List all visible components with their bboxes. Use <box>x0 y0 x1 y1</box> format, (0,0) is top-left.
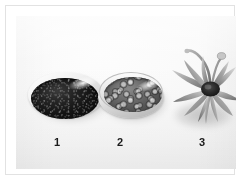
specimen-1 <box>28 68 106 124</box>
specimen-3-stem-tip <box>184 49 189 53</box>
specimen-photograph: 1 2 3 <box>16 16 236 169</box>
specimen-1-dish <box>28 72 104 118</box>
specimen-3-core-highlight <box>205 85 212 90</box>
specimen-3-seed-head <box>217 53 225 60</box>
specimen-3-label: 3 <box>195 136 209 148</box>
specimen-2-label: 2 <box>113 136 127 148</box>
specimen-3-rosette-core <box>201 82 220 97</box>
specimen-3 <box>166 40 236 132</box>
specimen-3-plant-illustration <box>166 40 236 132</box>
specimen-2 <box>98 70 170 124</box>
specimen-2-dish <box>99 72 163 112</box>
specimen-1-label: 1 <box>50 136 64 148</box>
figure-frame: 1 2 3 <box>5 5 235 175</box>
